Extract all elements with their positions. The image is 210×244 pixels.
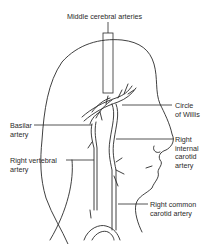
label-line: carotid artery [150, 210, 196, 219]
aortic-arch [84, 226, 120, 240]
circle-of-willis-vessels [82, 84, 136, 124]
mouth-detail [146, 166, 152, 168]
label-right-vertebral-artery: Right vertebral artery [10, 157, 57, 174]
middle-cerebral-leader-box [103, 33, 113, 93]
label-line: artery [10, 166, 57, 175]
label-line: artery [10, 131, 32, 140]
label-circle-of-willis: Circle of Willis [175, 102, 200, 119]
carotid-vessels [109, 104, 124, 230]
label-middle-cerebral-arteries: Middle cerebral arteries [67, 13, 142, 22]
label-right-common-carotid-artery: Right common carotid artery [150, 201, 196, 218]
vertebral-basilar-vessels [88, 122, 97, 218]
label-line: of Willis [175, 111, 200, 120]
label-line: artery [175, 162, 199, 171]
label-right-internal-carotid-artery: Right internal carotid artery [175, 136, 199, 170]
aortic-arch-inner [92, 231, 114, 240]
label-basilar-artery: Basilar artery [10, 122, 32, 139]
nostril-detail [153, 146, 160, 153]
